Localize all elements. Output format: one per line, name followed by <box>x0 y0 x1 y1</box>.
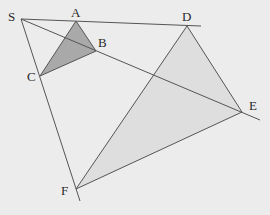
label-c: C <box>27 69 36 84</box>
label-f: F <box>61 183 68 198</box>
label-e: E <box>249 98 257 113</box>
label-a: A <box>71 5 81 20</box>
triangle-def <box>76 26 242 189</box>
ray-s-a-d <box>21 19 201 26</box>
triangle-abc <box>40 21 96 76</box>
label-s: S <box>8 9 15 24</box>
label-b: B <box>98 35 107 50</box>
homothety-diagram: S A B C D E F <box>0 0 270 215</box>
label-d: D <box>182 9 191 24</box>
